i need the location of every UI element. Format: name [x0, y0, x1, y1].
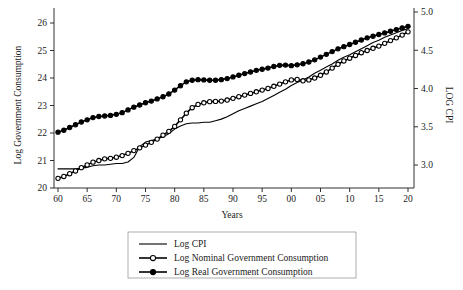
y-axis-left-tick-label: 25 [38, 46, 48, 56]
data-point-marker [126, 108, 130, 112]
data-point-marker [383, 41, 387, 45]
data-point-marker [266, 66, 270, 70]
data-point-marker [202, 101, 206, 105]
legend-item-label: Log Real Government Consumption [174, 267, 313, 277]
data-point-marker [184, 111, 188, 115]
y-axis-right-title: LOG CPI [444, 87, 454, 124]
data-point-marker [289, 63, 293, 67]
data-point-marker [243, 93, 247, 97]
data-point-marker [120, 111, 124, 115]
data-point-marker [406, 24, 410, 28]
y-axis-left-tick-labels: 20212223242526 [38, 18, 48, 193]
data-point-marker [202, 78, 206, 82]
data-point-marker [313, 76, 317, 80]
data-point-marker [272, 84, 276, 88]
x-axis-tick-label: 05 [316, 194, 326, 204]
data-point-marker [62, 128, 66, 132]
data-point-marker [237, 95, 241, 99]
x-axis-tick-label: 70 [112, 194, 122, 204]
series-2 [56, 30, 410, 181]
data-point-marker [336, 62, 340, 66]
data-point-marker [85, 118, 89, 122]
data-point-marker [120, 153, 124, 157]
y-axis-left-tick-label: 24 [38, 73, 48, 83]
x-axis-tick-label: 90 [228, 194, 238, 204]
data-point-marker [56, 130, 60, 134]
data-point-marker [237, 73, 241, 77]
x-axis-tick-label: 00 [287, 194, 297, 204]
data-point-marker [307, 78, 311, 82]
data-point-marker [143, 143, 147, 147]
data-point-marker [348, 56, 352, 60]
y-axis-left-tick-label: 23 [38, 101, 48, 111]
data-point-marker [190, 106, 194, 110]
data-point-marker [208, 78, 212, 82]
data-point-marker [149, 140, 153, 144]
data-point-marker [108, 113, 112, 117]
data-point-marker [313, 58, 317, 62]
y-axis-right-tick-label: 4.0 [421, 84, 433, 94]
data-point-marker [353, 53, 357, 57]
data-point-marker [295, 77, 299, 81]
data-point-marker [225, 98, 229, 102]
data-point-marker [167, 92, 171, 96]
data-point-marker [73, 123, 77, 127]
data-point-marker [260, 88, 264, 92]
x-axis-tick-label: 20 [403, 194, 413, 204]
series-3 [56, 24, 410, 134]
data-point-marker [155, 97, 159, 101]
legend-items: Log CPILog Nominal Government Consumptio… [139, 239, 329, 277]
data-point-marker [394, 27, 398, 31]
y-axis-right-tick-label: 3.5 [421, 122, 433, 132]
data-point-marker [68, 172, 72, 176]
data-point-marker [73, 169, 77, 173]
x-axis-tick-label: 80 [170, 194, 180, 204]
data-point-marker [79, 166, 83, 170]
data-point-marker [324, 52, 328, 56]
legend-item-label: Log Nominal Government Consumption [174, 253, 329, 263]
y-axis-right-tick-label: 3.0 [421, 160, 433, 170]
data-point-marker [330, 66, 334, 70]
data-point-marker [383, 31, 387, 35]
data-point-marker [126, 151, 130, 155]
data-point-marker [91, 115, 95, 119]
data-point-marker [231, 75, 235, 79]
data-point-marker [161, 95, 165, 99]
data-point-marker [278, 63, 282, 67]
data-point-marker [318, 73, 322, 77]
data-point-marker [178, 118, 182, 122]
data-point-marker [295, 63, 299, 67]
data-point-marker [342, 45, 346, 49]
data-point-marker [208, 100, 212, 104]
data-point-marker [289, 78, 293, 82]
data-point-marker [278, 82, 282, 86]
data-point-marker [114, 155, 118, 159]
data-point-marker [388, 38, 392, 42]
data-point-marker [56, 176, 60, 180]
data-point-marker [400, 26, 404, 30]
data-point-marker [231, 96, 235, 100]
y-axis-left-tick-label: 26 [38, 18, 48, 28]
data-point-marker [394, 36, 398, 40]
data-point-marker [184, 80, 188, 84]
data-point-marker [248, 91, 252, 95]
data-point-marker [348, 42, 352, 46]
data-point-marker [143, 101, 147, 105]
data-point-marker [85, 163, 89, 167]
y-axis-right-tick-label: 5.0 [421, 7, 433, 17]
data-point-marker [97, 114, 101, 118]
legend-item-2: Log Nominal Government Consumption [139, 253, 329, 263]
data-point-marker [155, 137, 159, 141]
legend-marker [150, 255, 155, 260]
data-point-marker [359, 51, 363, 55]
data-point-marker [342, 59, 346, 63]
data-point-marker [219, 78, 223, 82]
data-point-marker [254, 68, 258, 72]
x-axis-tick-label: 85 [199, 194, 209, 204]
data-point-marker [377, 32, 381, 36]
data-point-marker [365, 48, 369, 52]
x-axis-tick-label: 60 [53, 194, 63, 204]
legend-item-1: Log CPI [139, 239, 206, 249]
data-point-marker [353, 40, 357, 44]
data-point-marker [307, 60, 311, 64]
